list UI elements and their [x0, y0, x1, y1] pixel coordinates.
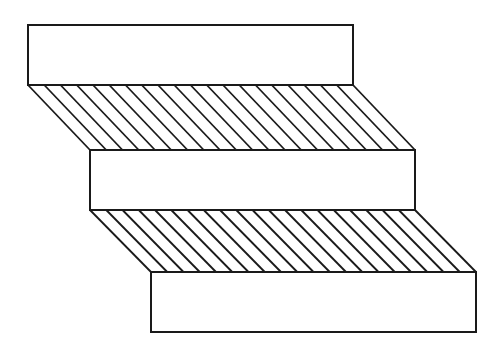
hatch-line: [301, 210, 362, 272]
block-bottom: [151, 272, 476, 332]
hatch-line: [318, 210, 379, 272]
hatch-line: [334, 210, 395, 272]
hatch-line: [77, 85, 139, 150]
hatch-line: [174, 85, 236, 150]
hatch-line: [288, 85, 350, 150]
hatch-line: [366, 210, 427, 272]
block-middle: [90, 150, 415, 210]
hatch-line: [353, 85, 415, 150]
hatch-line: [90, 210, 151, 272]
blocks: [28, 25, 476, 332]
hatch-line: [207, 85, 269, 150]
hatch-line: [204, 210, 265, 272]
hatch-line: [256, 85, 318, 150]
hatch-line: [126, 85, 188, 150]
hatch-line: [220, 210, 281, 272]
hatch-line: [188, 210, 249, 272]
hatch-line: [415, 210, 476, 272]
hatch-line: [158, 85, 220, 150]
hatch-line: [123, 210, 184, 272]
hatch-line: [155, 210, 216, 272]
stepped-blocks-diagram: [0, 0, 503, 355]
hatch-line: [272, 85, 334, 150]
hatch-line: [44, 85, 106, 150]
hatch-line: [383, 210, 444, 272]
block-top: [28, 25, 353, 85]
hatch-line: [285, 210, 346, 272]
hatch-line: [399, 210, 460, 272]
hatch-line: [61, 85, 123, 150]
hatch-line: [171, 210, 232, 272]
hatch-line: [139, 210, 200, 272]
hatch-line: [28, 85, 90, 150]
hatch-line: [269, 210, 330, 272]
hatch-line: [304, 85, 366, 150]
hatch-line: [236, 210, 297, 272]
hatch-line: [350, 210, 411, 272]
hatch-line: [142, 85, 204, 150]
hatch-line: [253, 210, 314, 272]
hatch-line: [223, 85, 285, 150]
hatch-line: [93, 85, 155, 150]
hatch-line: [109, 85, 171, 150]
hatch-line: [337, 85, 399, 150]
hatch-line: [191, 85, 253, 150]
hatch-line: [239, 85, 301, 150]
band-upper: [28, 85, 415, 150]
hatch-line: [321, 85, 383, 150]
band-lower: [90, 210, 476, 272]
hatch-line: [106, 210, 167, 272]
